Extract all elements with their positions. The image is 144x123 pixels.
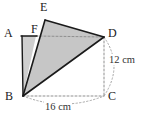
- vertex-label-d: D: [108, 27, 117, 39]
- vertex-label-a: A: [4, 27, 13, 39]
- vertex-label-c: C: [108, 90, 116, 102]
- geometry-figure: A B C D E F 12 cm 16 cm: [0, 0, 144, 123]
- vertex-label-e: E: [40, 1, 47, 13]
- dotted-arc-dc: [104, 37, 114, 96]
- dimension-label-horizontal: 16 cm: [44, 101, 72, 112]
- dimension-label-vertical: 12 cm: [108, 54, 136, 65]
- vertex-label-f: F: [31, 23, 38, 35]
- vertex-label-b: B: [5, 90, 13, 102]
- solid-edge-ab: [22, 36, 23, 96]
